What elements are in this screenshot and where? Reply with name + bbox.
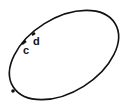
label-c: c [23,44,29,56]
label-d: d [33,35,40,47]
point-marker [11,89,15,93]
ellipse-curve [0,0,127,109]
ellipse-diagram: c d [0,0,127,109]
